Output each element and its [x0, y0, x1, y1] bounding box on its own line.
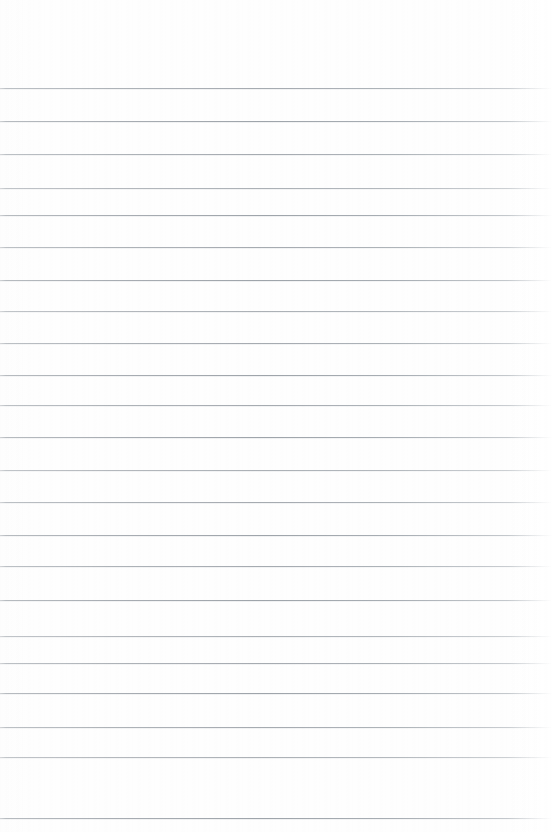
scan-noise-overlay: [0, 0, 552, 832]
rule-line: [0, 343, 552, 344]
rule-line: [0, 154, 552, 155]
rule-line: [0, 757, 552, 758]
rule-line: [0, 727, 552, 728]
ruled-lines-layer: [0, 0, 552, 832]
rule-line: [0, 535, 552, 536]
rule-line: [0, 600, 552, 601]
rule-line: [0, 636, 552, 637]
rule-line: [0, 375, 552, 376]
rule-line: [0, 311, 552, 312]
paper-surface: [0, 0, 552, 832]
rule-line: [0, 280, 552, 281]
rule-line: [0, 88, 552, 89]
rule-line: [0, 215, 552, 216]
rule-line: [0, 188, 552, 189]
rule-line: [0, 470, 552, 471]
rule-line: [0, 663, 552, 664]
rule-line: [0, 566, 552, 567]
paper-page: [0, 0, 552, 832]
rule-line: [0, 693, 552, 694]
rule-line: [0, 121, 552, 122]
rule-line: [0, 247, 552, 248]
top-margin-area: [0, 0, 552, 88]
rule-line: [0, 405, 552, 406]
rule-line: [0, 818, 552, 819]
rule-line: [0, 437, 552, 438]
rule-line: [0, 502, 552, 503]
